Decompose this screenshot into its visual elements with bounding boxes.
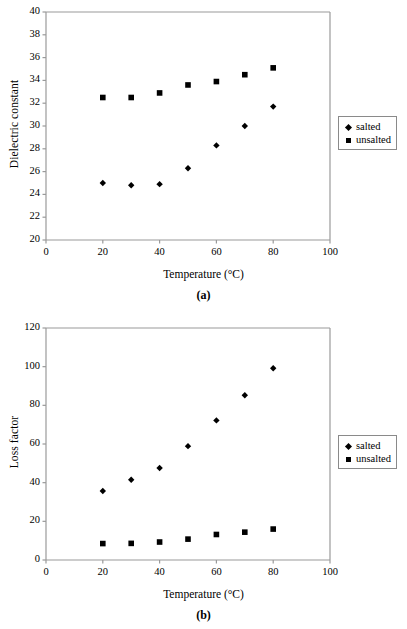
figure-panel-b: Loss factor Temperature (°C) (b) salted … (0, 312, 407, 629)
x-tick-label: 60 (196, 246, 236, 257)
data-point-unsalted (242, 72, 248, 78)
x-tick-label: 60 (196, 566, 236, 577)
data-point-salted (185, 443, 191, 449)
diamond-marker-icon (343, 439, 352, 452)
chart-a-legend: salted unsalted (338, 116, 397, 150)
chart-a-caption: (a) (0, 288, 407, 303)
data-point-unsalted (185, 536, 191, 542)
y-tick-label: 34 (6, 73, 40, 84)
y-tick-label: 24 (6, 187, 40, 198)
data-point-salted (270, 103, 276, 109)
x-tick-label: 80 (253, 246, 293, 257)
chart-a-x-axis-label: Temperature (°C) (0, 268, 407, 280)
x-tick-label: 40 (140, 246, 180, 257)
chart-b-x-axis-label: Temperature (°C) (0, 588, 407, 600)
y-tick-label: 38 (6, 28, 40, 39)
data-point-unsalted (128, 541, 134, 547)
data-point-unsalted (214, 532, 220, 538)
y-tick-label: 30 (6, 119, 40, 130)
x-tick-label: 20 (83, 246, 123, 257)
y-tick-label: 40 (6, 476, 40, 487)
y-tick-label: 36 (6, 51, 40, 62)
data-point-unsalted (157, 90, 163, 96)
x-tick-label: 80 (253, 566, 293, 577)
y-tick-label: 80 (6, 398, 40, 409)
diamond-marker-icon (343, 120, 352, 133)
y-tick-label: 28 (6, 142, 40, 153)
legend-label-salted: salted (356, 120, 381, 133)
legend-entry-unsalted: unsalted (343, 452, 391, 465)
chart-b-legend: salted unsalted (338, 435, 397, 469)
x-tick-label: 100 (310, 246, 350, 257)
legend-entry-salted: salted (343, 439, 391, 452)
y-tick-label: 20 (6, 514, 40, 525)
data-point-salted (185, 165, 191, 171)
legend-entry-unsalted: unsalted (343, 133, 391, 146)
y-tick-label: 22 (6, 210, 40, 221)
y-tick-label: 120 (6, 321, 40, 332)
y-tick-label: 60 (6, 437, 40, 448)
data-point-unsalted (100, 541, 106, 547)
data-point-unsalted (100, 95, 106, 101)
square-marker-icon (343, 452, 352, 465)
legend-label-unsalted: unsalted (356, 133, 391, 146)
y-tick-label: 40 (6, 5, 40, 16)
chart-b-caption: (b) (0, 608, 407, 623)
y-tick-label: 20 (6, 233, 40, 244)
data-point-unsalted (270, 65, 276, 71)
data-point-salted (128, 477, 134, 483)
legend-label-unsalted: unsalted (356, 452, 391, 465)
chart-a-canvas (0, 0, 407, 312)
data-point-unsalted (270, 526, 276, 532)
data-point-salted (242, 123, 248, 129)
x-tick-label: 20 (83, 566, 123, 577)
data-point-unsalted (214, 79, 220, 85)
data-point-salted (213, 417, 219, 423)
x-tick-label: 40 (140, 566, 180, 577)
legend-entry-salted: salted (343, 120, 391, 133)
figure-panel-a: Dielectric constant Temperature (°C) (a)… (0, 0, 407, 312)
legend-label-salted: salted (356, 439, 381, 452)
data-point-salted (100, 488, 106, 494)
data-point-salted (270, 365, 276, 371)
x-tick-label: 0 (26, 246, 66, 257)
data-point-unsalted (242, 529, 248, 535)
square-marker-icon (343, 133, 352, 146)
y-tick-label: 0 (6, 553, 40, 564)
data-point-unsalted (128, 95, 134, 101)
y-tick-label: 100 (6, 360, 40, 371)
x-tick-label: 100 (310, 566, 350, 577)
data-point-salted (156, 181, 162, 187)
chart-a: Dielectric constant Temperature (°C) (a)… (0, 0, 407, 312)
y-tick-label: 26 (6, 165, 40, 176)
chart-b-canvas (0, 312, 407, 629)
x-tick-label: 0 (26, 566, 66, 577)
data-point-salted (242, 392, 248, 398)
data-point-salted (100, 180, 106, 186)
data-point-unsalted (185, 82, 191, 88)
data-point-salted (213, 142, 219, 148)
chart-b: Loss factor Temperature (°C) (b) salted … (0, 312, 407, 629)
data-point-unsalted (157, 539, 163, 545)
data-point-salted (156, 465, 162, 471)
data-point-salted (128, 182, 134, 188)
y-tick-label: 32 (6, 96, 40, 107)
